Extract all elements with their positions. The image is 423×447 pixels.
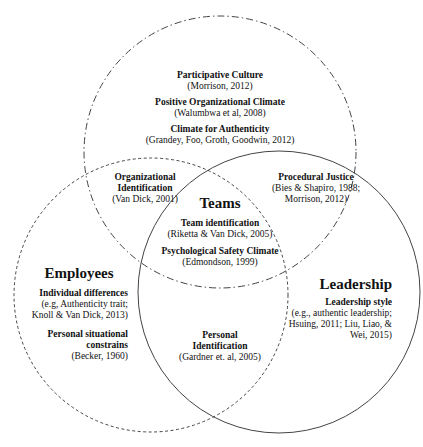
personal-identification-region: Personal Identification (Gardner et. al,… — [165, 330, 275, 363]
individual-differences-cite-2: Knoll & Van Dick, 2013) — [10, 310, 128, 321]
psych-safety-title: Psychological Safety Climate — [150, 246, 290, 257]
leadership-region: Leadership Leadership style (e.g., authe… — [280, 276, 392, 341]
individual-differences-cite-1: (e.g, Authenticity trait; — [10, 299, 128, 310]
leadership-style-cite-2: Hsuing, 2011; Liu, Liao, & — [280, 319, 392, 330]
participative-culture-cite: (Morrison, 2012) — [110, 81, 330, 92]
org-id-title-2: Identification — [90, 183, 200, 194]
org-id-title-1: Organizational — [90, 172, 200, 183]
positive-climate-cite: (Walumbwa et al, 2008) — [110, 108, 330, 119]
situational-constrains-cite: (Becker, 1960) — [10, 351, 128, 362]
individual-differences-title: Individual differences — [10, 288, 128, 299]
participative-culture-title: Participative Culture — [110, 70, 330, 81]
personal-id-title-1: Personal — [165, 330, 275, 341]
positive-climate-title: Positive Organizational Climate — [110, 97, 330, 108]
team-identification-cite: (Riketta & Van Dick, 2005) — [150, 229, 290, 240]
leadership-style-cite-1: (e.g., authentic leadership; — [280, 308, 392, 319]
personal-id-title-2: Identification — [165, 341, 275, 352]
leadership-style-cite-3: Wei, 2015) — [280, 330, 392, 341]
teams-heading: Teams — [150, 195, 290, 212]
authenticity-climate-title: Climate for Authenticity — [110, 124, 330, 135]
procedural-justice-cite-1: (Bies & Shapiro, 1988; — [256, 183, 376, 194]
teams-region: Teams Team identification (Riketta & Van… — [150, 195, 290, 268]
situational-constrains-title-1: Personal situational — [10, 329, 128, 340]
personal-id-cite: (Gardner et. al, 2005) — [165, 352, 275, 363]
employees-region: Employees Individual differences (e.g, A… — [10, 265, 128, 362]
organization-region: Participative Culture (Morrison, 2012) P… — [110, 70, 330, 146]
procedural-justice-title: Procedural Justice — [256, 172, 376, 183]
employees-heading: Employees — [10, 265, 128, 282]
psych-safety-cite: (Edmondson, 1999) — [150, 257, 290, 268]
leadership-heading: Leadership — [280, 276, 392, 293]
authenticity-climate-cite: (Grandey, Foo, Groth, Goodwin, 2012) — [110, 135, 330, 146]
situational-constrains-title-2: constrains — [10, 340, 128, 351]
team-identification-title: Team identification — [150, 218, 290, 229]
leadership-style-title: Leadership style — [280, 297, 392, 308]
